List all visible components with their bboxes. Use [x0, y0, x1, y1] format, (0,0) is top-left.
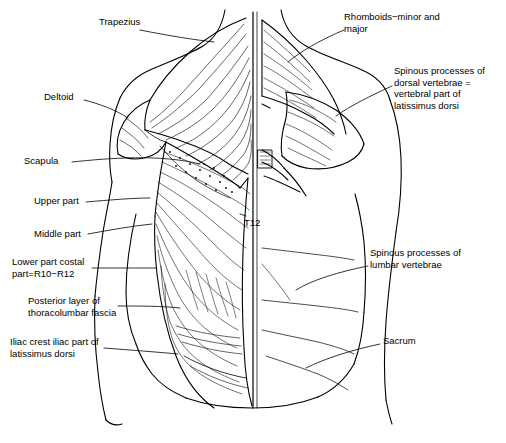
label-t12: T12 — [244, 217, 260, 229]
label-posterior-layer: Posterior layer of thoracolumbar fascia — [28, 295, 116, 318]
scapula-right — [281, 92, 364, 169]
anatomy-figure-page: Trapezius Rhomboids−minor and major Spin… — [0, 0, 506, 443]
rhomboids-right — [262, 20, 346, 134]
label-lower-part-costal: Lower part costal part=R10−R12 — [12, 256, 84, 279]
deep-back-right — [258, 104, 306, 196]
latissimus-dorsi-left — [155, 142, 252, 408]
trapezius-left — [145, 18, 252, 180]
midline-spine — [253, 12, 257, 408]
label-iliac-crest: Iliac crest iliac part of latissimus dor… — [10, 336, 99, 359]
deltoid-left — [117, 100, 166, 159]
label-spinous-lumbar: Spinous processes of lumbar vertebrae — [370, 247, 461, 270]
label-scapula: Scapula — [24, 155, 58, 167]
label-spinous-dorsal: Spinous processes of dorsal vertebrae = … — [394, 65, 485, 111]
lumbar-sacrum-right — [262, 248, 358, 390]
label-middle-part: Middle part — [34, 228, 81, 240]
label-sacrum: Sacrum — [383, 335, 416, 347]
label-upper-part: Upper part — [34, 195, 79, 207]
label-trapezius: Trapezius — [99, 16, 140, 28]
label-rhomboids: Rhomboids−minor and major — [344, 11, 440, 34]
leader-lines — [72, 30, 392, 368]
label-deltoid: Deltoid — [44, 91, 74, 103]
